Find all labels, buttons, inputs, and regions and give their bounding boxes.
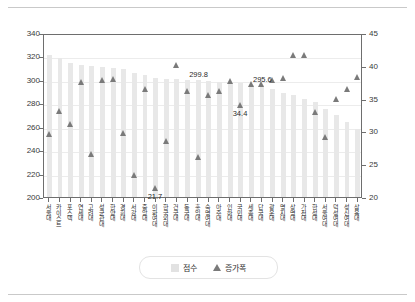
x-axis-tick-mark [346, 198, 347, 202]
y2-axis-tick-mark [362, 67, 366, 68]
x-axis-tick-label: 아주대 [215, 204, 221, 221]
chart-page: 200220240260280300320340 202530354045 29… [0, 0, 415, 302]
x-axis-tick-mark [187, 198, 188, 202]
x-axis-tick-label: 연세대 [77, 204, 83, 221]
x-axis-tick-mark [123, 198, 124, 202]
x-axis-tick-label: 카이스트 [56, 204, 62, 226]
bar [270, 89, 275, 197]
triangle-marker [301, 52, 307, 58]
data-label: 34.4 [233, 110, 248, 118]
x-axis-tick-mark [357, 198, 358, 202]
bottom-divider [8, 294, 407, 295]
y2-axis-tick-mark [362, 100, 366, 101]
bar [281, 93, 286, 197]
y-axis-tick-label: 220 [0, 171, 40, 179]
x-axis-tick-label: 삼육대 [354, 204, 360, 221]
bar [323, 109, 328, 197]
x-axis-tick-label: 숙명여대 [205, 204, 211, 226]
bar [185, 80, 190, 197]
x-axis-tick-mark [155, 198, 156, 202]
x-axis-tick-mark [112, 198, 113, 202]
y-axis-tick-label: 200 [0, 194, 40, 202]
triangle-marker [280, 75, 286, 81]
x-axis-tick-label: 동국대 [184, 204, 190, 221]
y-axis-tick-label: 240 [0, 147, 40, 155]
x-axis-tick-label: 가천대 [301, 204, 307, 221]
data-label: 299.8 [189, 71, 208, 79]
triangle-marker [227, 78, 233, 84]
x-axis-tick-mark [282, 198, 283, 202]
x-axis-tick-mark [176, 198, 177, 202]
plot-area-wrapper: 200220240260280300320340 202530354045 29… [0, 18, 415, 250]
legend-label-increase: 증가폭 [225, 262, 246, 273]
triangle-marker [88, 151, 94, 157]
bar [174, 79, 179, 197]
y-axis-tick-label: 280 [0, 100, 40, 108]
x-axis-tick-mark [325, 198, 326, 202]
bar [68, 63, 73, 197]
legend-item-score: 점수 [171, 262, 197, 273]
bar [249, 85, 254, 197]
x-axis-tick-mark [59, 198, 60, 202]
bar [47, 55, 52, 197]
triangle-marker [142, 86, 148, 92]
legend-item-increase: 증가폭 [213, 262, 246, 273]
triangle-marker [110, 76, 116, 82]
x-axis-tick-mark [314, 198, 315, 202]
bar [111, 68, 116, 197]
x-axis-tick-mark [335, 198, 336, 202]
x-axis-tick-label: 고려대 [88, 204, 94, 221]
triangle-marker [344, 86, 350, 92]
y-axis-tick-label: 260 [0, 124, 40, 132]
x-axis-tick-label: 성균관대 [98, 204, 104, 226]
bar [132, 73, 137, 197]
triangle-marker [56, 108, 62, 114]
x-axis-tick-label: 인하대 [226, 204, 232, 221]
legend-label-score: 점수 [183, 262, 197, 273]
x-axis-tick-mark [208, 198, 209, 202]
y-axis-tick-label: 320 [0, 53, 40, 61]
bar [217, 82, 222, 197]
bar [196, 80, 201, 197]
triangle-marker [333, 96, 339, 102]
x-axis-tick-label: 중앙대 [141, 204, 147, 221]
triangle-marker [290, 52, 296, 58]
x-axis-tick-mark [293, 198, 294, 202]
x-axis-tick-mark [165, 198, 166, 202]
x-axis: 서울대카이스트포스텍연세대고려대성균관대한양대경희대서강대중앙대이화여대한국외대… [43, 198, 362, 262]
x-axis-tick-label: 한국외대 [162, 204, 168, 226]
x-axis-tick-mark [197, 198, 198, 202]
bar [260, 85, 265, 197]
triangle-marker [78, 79, 84, 85]
x-axis-tick-label: 서울여대 [322, 204, 328, 226]
bar [345, 122, 350, 197]
triangle-marker [99, 77, 105, 83]
legend-square-swatch-icon [171, 264, 179, 272]
bar [313, 102, 318, 197]
triangle-marker [184, 88, 190, 94]
x-axis-tick-mark [229, 198, 230, 202]
x-axis-tick-mark [240, 198, 241, 202]
triangle-marker [163, 138, 169, 144]
x-axis-tick-label: 단국대 [258, 204, 264, 221]
x-axis-tick-label: 성신여대 [343, 204, 349, 226]
bar [100, 67, 105, 197]
triangle-marker [195, 154, 201, 160]
triangle-marker [354, 74, 360, 80]
top-divider [8, 7, 407, 8]
triangle-marker [322, 134, 328, 140]
x-axis-tick-label: 이화여대 [152, 204, 158, 226]
y2-axis-tick-mark [362, 198, 366, 199]
x-axis-tick-label: 덕성여대 [332, 204, 338, 226]
triangle-marker [120, 130, 126, 136]
y2-axis-tick-label: 40 [369, 63, 399, 71]
x-axis-tick-label: 세종대 [247, 204, 253, 221]
bar [143, 75, 148, 197]
y2-axis-tick-mark [362, 165, 366, 166]
bar [302, 99, 307, 197]
y2-axis-tick-label: 20 [369, 194, 399, 202]
y-axis-tick-label: 300 [0, 77, 40, 85]
y2-axis-tick-label: 45 [369, 30, 399, 38]
x-axis-tick-mark [272, 198, 273, 202]
y2-axis-tick-mark [362, 132, 366, 133]
